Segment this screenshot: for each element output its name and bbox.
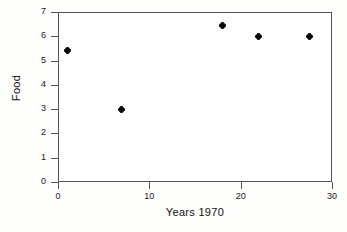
y-tick-mark	[51, 12, 58, 13]
y-tick-mark	[51, 36, 58, 37]
y-tick-mark	[51, 61, 58, 62]
data-point	[65, 48, 70, 53]
x-tick-label: 10	[134, 191, 164, 201]
x-tick-label: 20	[226, 191, 256, 201]
y-tick-label: 0	[30, 176, 46, 186]
y-tick-mark	[51, 85, 58, 86]
y-axis-label: Food	[10, 58, 22, 118]
x-axis-label: Years 1970	[58, 206, 332, 218]
plot-area	[58, 12, 332, 182]
y-tick-mark	[51, 133, 58, 134]
x-tick-mark	[332, 182, 333, 189]
x-tick-mark	[149, 182, 150, 189]
data-point	[307, 34, 312, 39]
y-tick-mark	[51, 158, 58, 159]
data-point	[256, 34, 261, 39]
x-tick-label: 0	[43, 191, 73, 201]
y-tick-label: 3	[30, 103, 46, 113]
x-tick-mark	[58, 182, 59, 189]
y-tick-label: 5	[30, 55, 46, 65]
x-tick-label: 30	[317, 191, 347, 201]
y-tick-label: 7	[30, 6, 46, 16]
y-tick-mark	[51, 109, 58, 110]
y-tick-label: 2	[30, 127, 46, 137]
y-tick-label: 4	[30, 79, 46, 89]
x-tick-mark	[241, 182, 242, 189]
y-tick-mark	[51, 182, 58, 183]
y-tick-label: 1	[30, 152, 46, 162]
y-tick-label: 6	[30, 30, 46, 40]
data-point	[119, 107, 124, 112]
data-point	[220, 23, 225, 28]
chart-page: 01234567 0102030 Food Years 1970	[0, 0, 347, 232]
